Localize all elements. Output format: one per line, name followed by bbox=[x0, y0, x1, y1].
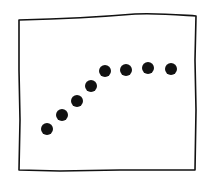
data-point bbox=[165, 63, 177, 75]
data-point bbox=[71, 95, 83, 107]
data-point bbox=[120, 64, 132, 76]
data-points bbox=[41, 62, 177, 135]
data-point bbox=[56, 109, 68, 121]
data-point bbox=[142, 62, 154, 74]
data-point bbox=[41, 123, 53, 135]
data-point bbox=[99, 65, 111, 77]
plot-frame bbox=[19, 14, 196, 171]
data-point bbox=[85, 80, 97, 92]
chart bbox=[0, 0, 208, 178]
